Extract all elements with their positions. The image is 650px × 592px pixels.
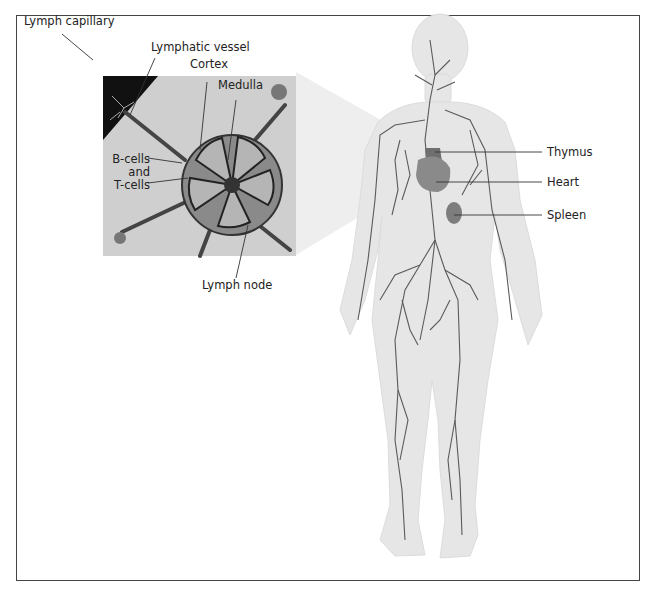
label-lymph-capillary: Lymph capillary bbox=[24, 15, 114, 28]
label-heart: Heart bbox=[547, 176, 579, 189]
label-spleen: Spleen bbox=[547, 209, 586, 222]
label-medulla: Medulla bbox=[218, 79, 263, 92]
label-lymphatic-vessel: Lymphatic vessel bbox=[151, 41, 250, 54]
label-t-cells: T-cells bbox=[110, 179, 150, 192]
label-b-and-t-cells: B-cells and T-cells bbox=[110, 153, 150, 192]
spleen-organ bbox=[446, 202, 462, 224]
label-cortex: Cortex bbox=[190, 58, 228, 71]
label-thymus: Thymus bbox=[547, 146, 593, 159]
label-lymph-node: Lymph node bbox=[202, 279, 272, 292]
human-body-silhouette bbox=[340, 14, 542, 558]
lymphatic-system-illustration bbox=[0, 0, 650, 592]
distant-node bbox=[271, 84, 287, 100]
distant-node bbox=[114, 232, 126, 244]
